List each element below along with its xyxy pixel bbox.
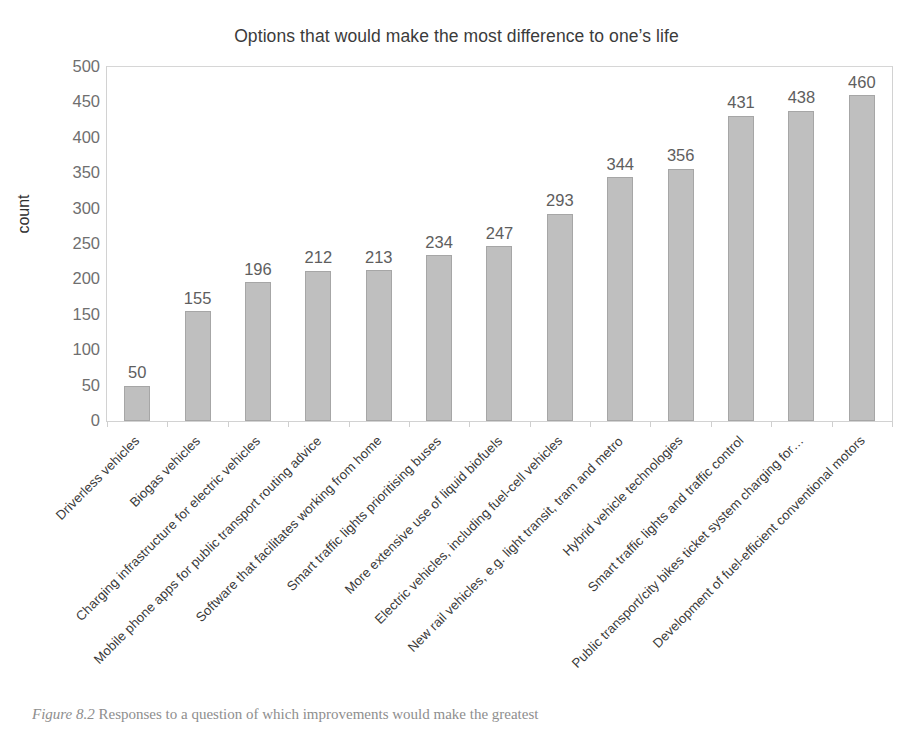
bar-value-label: 234 bbox=[425, 234, 453, 251]
y-tick-label: 300 bbox=[52, 200, 100, 217]
chart-title: Options that would make the most differe… bbox=[0, 26, 913, 47]
y-axis-title: count bbox=[15, 174, 33, 254]
y-tick-label: 50 bbox=[52, 377, 100, 394]
figure-caption: Figure 8.2 Responses to a question of wh… bbox=[32, 706, 892, 723]
bar[interactable] bbox=[849, 95, 875, 421]
x-tick-mark bbox=[228, 422, 229, 427]
bar-value-label: 344 bbox=[606, 156, 634, 173]
x-tick-mark bbox=[530, 422, 531, 427]
bar-value-label: 293 bbox=[546, 192, 574, 209]
bar-slot: 431 bbox=[711, 67, 771, 421]
figure-bar-chart: Options that would make the most differe… bbox=[0, 0, 913, 730]
x-tick-mark bbox=[288, 422, 289, 427]
x-tick-mark bbox=[469, 422, 470, 427]
y-tick-label: 0 bbox=[52, 412, 100, 429]
y-tick-label: 350 bbox=[52, 164, 100, 181]
figure-caption-text: Responses to a question of which improve… bbox=[99, 706, 539, 722]
bar[interactable] bbox=[124, 386, 150, 421]
bar-value-label: 196 bbox=[244, 261, 272, 278]
bar[interactable] bbox=[486, 246, 512, 421]
x-category-label: New rail vehicles, e.g. light transit, t… bbox=[404, 433, 625, 654]
x-tick-mark bbox=[650, 422, 651, 427]
x-tick-mark bbox=[711, 422, 712, 427]
x-axis-ticks bbox=[107, 422, 892, 428]
bar-slot: 460 bbox=[832, 67, 892, 421]
bar-value-label: 155 bbox=[184, 290, 212, 307]
bar-slot: 212 bbox=[288, 67, 348, 421]
bar-value-label: 213 bbox=[365, 249, 393, 266]
y-tick-label: 250 bbox=[52, 235, 100, 252]
figure-number: Figure 8.2 bbox=[32, 706, 95, 722]
bar[interactable] bbox=[668, 169, 694, 421]
y-tick-label: 450 bbox=[52, 93, 100, 110]
x-category-label: Mobile phone apps for public transport r… bbox=[90, 433, 324, 667]
x-category-label: Development of fuel-efficient convention… bbox=[649, 433, 867, 651]
x-tick-mark bbox=[167, 422, 168, 427]
bar-value-label: 212 bbox=[305, 249, 333, 266]
bar-slot: 344 bbox=[590, 67, 650, 421]
x-category-label: Hybrid vehicle technologies bbox=[560, 433, 686, 559]
y-tick-label: 400 bbox=[52, 129, 100, 146]
x-category-label: Driverless vehicles bbox=[53, 433, 143, 523]
x-tick-mark bbox=[409, 422, 410, 427]
bar[interactable] bbox=[547, 214, 573, 421]
bar-slot: 356 bbox=[650, 67, 710, 421]
bar-slot: 50 bbox=[107, 67, 167, 421]
bar[interactable] bbox=[426, 255, 452, 421]
bar-slot: 234 bbox=[409, 67, 469, 421]
x-tick-mark bbox=[107, 422, 108, 427]
bar-slot: 247 bbox=[469, 67, 529, 421]
x-tick-mark bbox=[832, 422, 833, 427]
bar-value-label: 438 bbox=[788, 89, 816, 106]
y-tick-label: 100 bbox=[52, 341, 100, 358]
bar-value-label: 247 bbox=[486, 225, 514, 242]
bar-value-label: 356 bbox=[667, 147, 695, 164]
bar-slot: 213 bbox=[349, 67, 409, 421]
x-tick-mark bbox=[892, 422, 893, 427]
bar[interactable] bbox=[245, 282, 271, 421]
x-tick-mark bbox=[771, 422, 772, 427]
bar[interactable] bbox=[366, 270, 392, 421]
bar-value-label: 460 bbox=[848, 74, 876, 91]
bar-value-label: 50 bbox=[128, 364, 146, 381]
bar-slot: 196 bbox=[228, 67, 288, 421]
y-axis-tick-labels: 500450400350300250200150100500 bbox=[48, 66, 100, 422]
bar-value-label: 431 bbox=[727, 94, 755, 111]
bar-slot: 438 bbox=[771, 67, 831, 421]
y-tick-label: 150 bbox=[52, 306, 100, 323]
y-tick-label: 500 bbox=[52, 58, 100, 75]
x-category-label: Public transport/city bikes ticket syste… bbox=[569, 433, 807, 671]
bar-series: 50155196212213234247293344356431438460 bbox=[107, 67, 892, 421]
bar[interactable] bbox=[185, 311, 211, 421]
bar[interactable] bbox=[607, 177, 633, 421]
x-tick-mark bbox=[349, 422, 350, 427]
bar[interactable] bbox=[728, 116, 754, 421]
bar[interactable] bbox=[788, 111, 814, 421]
y-tick-label: 200 bbox=[52, 270, 100, 287]
bar-slot: 155 bbox=[167, 67, 227, 421]
bar-slot: 293 bbox=[530, 67, 590, 421]
x-tick-mark bbox=[590, 422, 591, 427]
bar[interactable] bbox=[305, 271, 331, 421]
